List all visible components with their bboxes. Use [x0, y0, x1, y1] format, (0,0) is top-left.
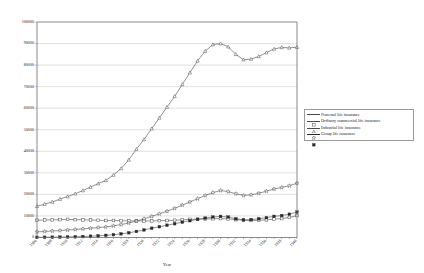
- data-point: [219, 215, 222, 218]
- data-point: [181, 221, 184, 224]
- data-point: [150, 214, 154, 218]
- data-point: [135, 230, 138, 233]
- data-point: [180, 203, 184, 207]
- data-point: [203, 193, 207, 197]
- data-point: [43, 219, 46, 222]
- legend-item-label: Fraternal life insurance: [321, 112, 360, 119]
- data-point: [112, 219, 115, 222]
- data-point: [288, 216, 291, 219]
- chart-legend: Fraternal life insuranceOrdinary commerc…: [304, 109, 414, 141]
- data-point: [211, 191, 215, 195]
- data-point: [97, 219, 100, 222]
- data-point: [273, 218, 276, 221]
- data-point: [173, 206, 177, 210]
- data-series: [35, 42, 299, 239]
- data-point: [265, 51, 268, 54]
- data-point: [166, 224, 169, 227]
- y-tick-label: 90000: [24, 40, 34, 45]
- x-tick-label: 1936: [258, 238, 267, 247]
- y-tick-label: 50000: [24, 127, 34, 132]
- data-point: [112, 233, 115, 236]
- data-point: [104, 225, 108, 229]
- data-point: [249, 193, 253, 197]
- series-1: [35, 42, 298, 208]
- data-point: [112, 224, 116, 228]
- data-point: [73, 228, 77, 232]
- data-point: [82, 218, 85, 221]
- x-tick-label: 1908: [44, 238, 53, 247]
- legend-item[interactable]: Group life insurance: [307, 131, 410, 138]
- data-point: [120, 219, 123, 222]
- data-point: [264, 189, 268, 193]
- y-tick-label: 80000: [24, 62, 34, 67]
- data-point: [234, 217, 237, 220]
- gridlines: [35, 22, 297, 238]
- data-point: [66, 218, 69, 221]
- data-point: [89, 219, 92, 222]
- x-tick-label: 1932: [227, 238, 236, 247]
- x-tick-label: 1910: [59, 238, 68, 247]
- data-point: [226, 190, 230, 194]
- data-point: [165, 209, 169, 213]
- legend-item-label: Industrial life insurance: [321, 125, 361, 132]
- y-tick-label: 20000: [24, 191, 34, 196]
- data-point: [150, 220, 153, 223]
- x-tick-label: 1938: [273, 238, 282, 247]
- y-axis-tick-labels: 0100002000030000400005000060000700008000…: [22, 19, 34, 240]
- data-point: [158, 225, 161, 228]
- x-axis-title: Year: [163, 262, 172, 267]
- data-point: [81, 227, 85, 231]
- legend-marker-icon: [307, 112, 320, 118]
- data-point: [166, 219, 169, 222]
- data-point: [257, 217, 260, 220]
- x-axis-tick-labels: 1906190819101912191419161918192019221924…: [28, 238, 297, 247]
- data-point: [43, 229, 47, 233]
- data-point: [59, 236, 62, 239]
- y-tick-label: 70000: [24, 84, 34, 89]
- data-point: [234, 192, 238, 196]
- series-3: [36, 211, 299, 239]
- legend-item-label: Ordinary commercial life insurance: [321, 118, 381, 125]
- x-tick-label: 1930: [212, 238, 221, 247]
- data-point: [96, 226, 100, 230]
- data-point: [59, 218, 62, 221]
- data-point: [196, 197, 200, 201]
- x-tick-label: 1920: [135, 238, 144, 247]
- data-point: [189, 219, 192, 222]
- legend-item[interactable]: Fraternal life insurance: [307, 112, 410, 119]
- legend-marker-icon: [307, 125, 320, 131]
- data-point: [104, 219, 107, 222]
- x-tick-label: 1918: [120, 238, 129, 247]
- data-point: [74, 218, 77, 221]
- data-point: [150, 227, 153, 230]
- data-point: [196, 218, 199, 221]
- data-point: [157, 212, 161, 216]
- data-point: [204, 217, 207, 220]
- data-point: [280, 185, 284, 189]
- data-point: [173, 222, 176, 225]
- legend-item[interactable]: Ordinary commercial life insurance: [307, 118, 410, 125]
- data-point: [280, 217, 283, 220]
- x-tick-label: 1906: [28, 238, 37, 247]
- data-point: [212, 216, 215, 219]
- data-point: [280, 214, 283, 217]
- legend-item[interactable]: Industrial life insurance: [307, 125, 410, 132]
- data-point: [288, 213, 291, 216]
- chart-container: 0100002000030000400005000060000700008000…: [0, 0, 424, 273]
- y-tick-label: 10000: [24, 213, 34, 218]
- data-point: [104, 179, 107, 182]
- x-tick-label: 1940: [288, 238, 297, 247]
- legend-item-label: Group life insurance: [321, 131, 355, 138]
- x-tick-label: 1926: [181, 238, 190, 247]
- data-point: [173, 219, 176, 222]
- data-point: [287, 184, 291, 188]
- data-point: [272, 187, 276, 191]
- data-point: [188, 200, 192, 204]
- data-point: [127, 231, 130, 234]
- data-point: [51, 218, 54, 221]
- data-point: [265, 216, 268, 219]
- legend-marker-icon: [307, 132, 320, 138]
- data-point: [242, 218, 245, 221]
- x-tick-label: 1914: [90, 238, 99, 247]
- data-point: [227, 216, 230, 219]
